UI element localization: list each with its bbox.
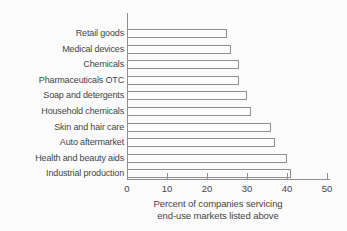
x-tick-label-50: 50 (322, 184, 333, 194)
x-tick-label-20: 20 (202, 184, 213, 194)
bar-pharmaceuticals-otc (127, 76, 239, 85)
category-label-soap-and-detergents: Soap and detergents (4, 90, 124, 101)
x-tick-40 (287, 173, 288, 179)
bar-chemicals (127, 60, 239, 69)
x-tick-label-0: 0 (124, 184, 129, 194)
x-tick-30 (247, 173, 248, 179)
category-label-industrial-production: Industrial production (4, 168, 124, 179)
x-axis-title-line-1: Percent of companies servicing (90, 198, 346, 209)
category-label-skin-and-hair-care: Skin and hair care (4, 122, 124, 133)
category-label-auto-aftermarket: Auto aftermarket (4, 137, 124, 148)
bar-soap-and-detergents (127, 91, 247, 100)
category-label-medical-devices: Medical devices (4, 44, 124, 55)
x-tick-50 (327, 173, 328, 179)
bar-medical-devices (127, 45, 231, 54)
category-label-pharmaceuticals-otc: Pharmaceuticals OTC (4, 75, 124, 86)
x-axis-title-line-2: end-use markets listed above (90, 210, 346, 221)
x-tick-20 (207, 173, 208, 179)
bar-industrial-production (127, 169, 291, 178)
bar-health-and-beauty-aids (127, 154, 287, 163)
bar-skin-and-hair-care (127, 123, 271, 132)
x-tick-label-10: 10 (162, 184, 173, 194)
category-label-retail-goods: Retail goods (4, 28, 124, 39)
x-axis-line (127, 179, 330, 180)
bar-chart-figure: Retail goodsMedical devicesChemicalsPhar… (0, 0, 347, 231)
category-label-chemicals: Chemicals (4, 59, 124, 70)
bar-auto-aftermarket (127, 138, 275, 147)
bar-household-chemicals (127, 107, 251, 116)
bar-retail-goods (127, 29, 227, 38)
x-tick-10 (167, 173, 168, 179)
category-label-health-and-beauty-aids: Health and beauty aids (4, 153, 124, 164)
x-tick-label-30: 30 (242, 184, 253, 194)
category-label-household-chemicals: Household chemicals (4, 106, 124, 117)
x-tick-label-40: 40 (282, 184, 293, 194)
